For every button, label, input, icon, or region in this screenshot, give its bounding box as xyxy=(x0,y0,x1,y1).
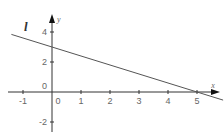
axes xyxy=(8,14,220,132)
x-tick-label: 4 xyxy=(165,96,170,106)
y-tick-label: 4 xyxy=(42,27,47,37)
chart-canvas: -1123450-2024 xyl xyxy=(0,0,224,136)
origin-x-label: 0 xyxy=(55,96,60,106)
y-axis-label: y xyxy=(56,15,61,24)
y-tick-label: -2 xyxy=(39,117,47,127)
labels: xyl xyxy=(24,15,215,90)
x-axis-label: x xyxy=(210,81,215,90)
line-graph: -1123450-2024 xyl xyxy=(0,0,224,136)
y-tick-label: 0 xyxy=(42,81,47,91)
x-tick-label: 2 xyxy=(107,96,112,106)
x-tick-label: 5 xyxy=(194,96,199,106)
line-label: l xyxy=(24,19,28,34)
x-tick-label: 3 xyxy=(136,96,141,106)
x-tick-label: -1 xyxy=(19,96,27,106)
x-tick-label: 1 xyxy=(78,96,83,106)
y-axis-arrow-icon xyxy=(49,14,55,23)
ticks: -1123450-2024 xyxy=(19,27,200,127)
y-tick-label: 2 xyxy=(42,57,47,67)
